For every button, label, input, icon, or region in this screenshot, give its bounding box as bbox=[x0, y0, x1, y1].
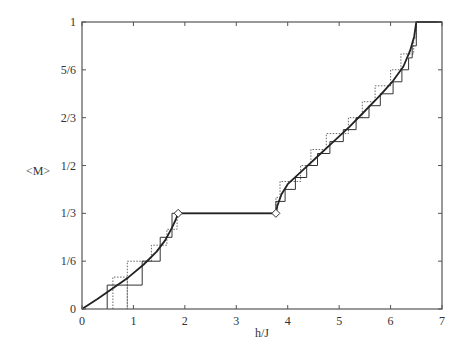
magnetization-curve bbox=[82, 22, 442, 309]
y-tick-label: 1/6 bbox=[61, 254, 76, 268]
diamond-marker-icon bbox=[174, 209, 182, 217]
plot-frame bbox=[82, 22, 442, 309]
y-tick-label: 1/3 bbox=[61, 206, 76, 220]
x-tick-label: 6 bbox=[388, 314, 394, 328]
magnetization-chart: 0123456701/61/31/22/35/61 h/J <M> bbox=[0, 0, 464, 353]
y-axis-label: <M> bbox=[26, 164, 50, 178]
y-tick-label: 1/2 bbox=[61, 159, 76, 173]
x-tick-label: 5 bbox=[336, 314, 342, 328]
axis-ticks: 0123456701/61/31/22/35/61 bbox=[61, 15, 445, 328]
x-tick-label: 4 bbox=[285, 314, 291, 328]
series-layer bbox=[82, 22, 442, 309]
dotted-staircase bbox=[113, 22, 416, 309]
y-tick-label: 1 bbox=[70, 15, 76, 29]
solid-staircase bbox=[107, 22, 416, 309]
y-tick-label: 5/6 bbox=[61, 63, 76, 77]
y-tick-label: 0 bbox=[70, 302, 76, 316]
x-tick-label: 7 bbox=[439, 314, 445, 328]
x-tick-label: 0 bbox=[79, 314, 85, 328]
diamond-marker-icon bbox=[272, 209, 280, 217]
x-tick-label: 2 bbox=[182, 314, 188, 328]
x-axis-label: h/J bbox=[255, 326, 269, 340]
x-tick-label: 3 bbox=[233, 314, 239, 328]
y-tick-label: 2/3 bbox=[61, 111, 76, 125]
x-tick-label: 1 bbox=[130, 314, 136, 328]
